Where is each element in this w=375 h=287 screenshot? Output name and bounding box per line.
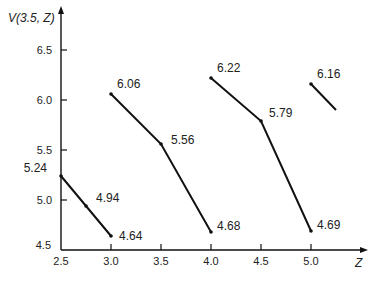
x-tick-label: 5.0 bbox=[303, 255, 318, 267]
data-point bbox=[309, 82, 313, 86]
data-label: 4.64 bbox=[119, 229, 143, 243]
y-axis-arrow-icon bbox=[58, 6, 64, 14]
data-point bbox=[209, 230, 213, 234]
data-label: 6.22 bbox=[217, 61, 241, 75]
data-label: 5.24 bbox=[24, 161, 48, 175]
data-point bbox=[259, 119, 263, 123]
y-tick-label: 5.0 bbox=[37, 194, 52, 206]
data-label: 4.68 bbox=[217, 219, 241, 233]
point-labels: 5.244.944.646.065.564.686.225.794.696.16 bbox=[24, 61, 341, 243]
series-line-2 bbox=[111, 94, 211, 232]
data-point bbox=[109, 92, 113, 96]
data-label: 6.16 bbox=[317, 67, 341, 81]
y-axis-title: V(3.5, Z) bbox=[8, 11, 55, 25]
x-axis-title: Z bbox=[354, 256, 363, 270]
data-point bbox=[309, 229, 313, 233]
x-axis-arrow-icon bbox=[360, 247, 368, 253]
data-label: 4.69 bbox=[317, 218, 341, 232]
y-tick-label: 6.0 bbox=[37, 94, 52, 106]
data-label: 5.56 bbox=[171, 133, 195, 147]
data-point bbox=[84, 204, 88, 208]
line-chart: 4.55.05.56.06.52.53.03.54.04.55.0V(3.5, … bbox=[0, 0, 375, 287]
data-label: 4.94 bbox=[96, 191, 120, 205]
data-label: 5.79 bbox=[269, 106, 293, 120]
x-tick-label: 3.0 bbox=[103, 255, 118, 267]
data-point bbox=[159, 142, 163, 146]
x-tick-label: 4.0 bbox=[203, 255, 218, 267]
x-tick-label: 2.5 bbox=[53, 255, 68, 267]
y-tick-label: 4.5 bbox=[36, 239, 51, 251]
series-line-4 bbox=[311, 84, 336, 110]
data-point bbox=[209, 76, 213, 80]
series-line-3 bbox=[211, 78, 311, 231]
y-tick-label: 5.5 bbox=[37, 144, 52, 156]
x-tick-label: 3.5 bbox=[153, 255, 168, 267]
data-label: 6.06 bbox=[117, 77, 141, 91]
data-point bbox=[109, 234, 113, 238]
x-tick-label: 4.5 bbox=[253, 255, 268, 267]
data-point bbox=[59, 174, 63, 178]
series-group bbox=[59, 76, 336, 238]
y-tick-label: 6.5 bbox=[37, 44, 52, 56]
